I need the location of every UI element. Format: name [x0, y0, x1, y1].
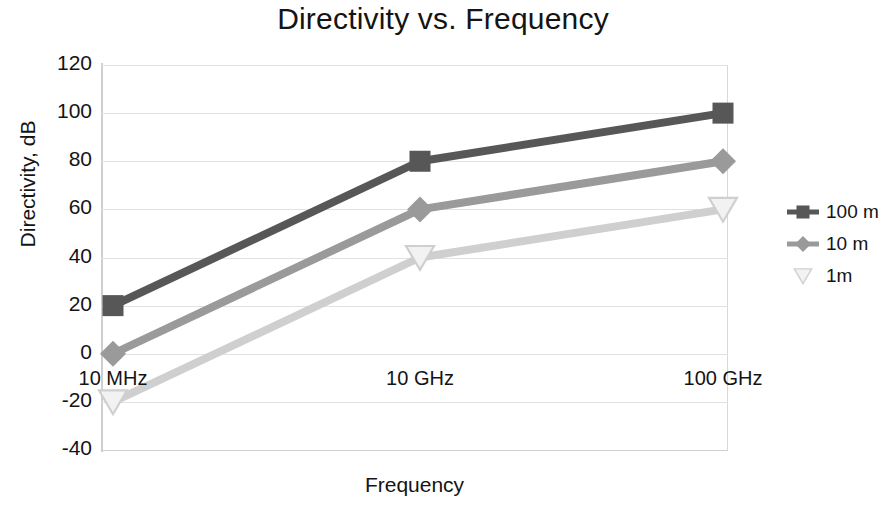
data-point-marker: [410, 151, 431, 172]
plot-area: [101, 65, 728, 450]
data-point-marker: [710, 148, 736, 174]
x-tick-label: 100 GHz: [653, 367, 793, 390]
chart-title: Directivity vs. Frequency: [0, 2, 886, 36]
x-tick-label: 10 GHz: [350, 367, 490, 390]
gridline--40: [101, 450, 728, 451]
y-tick-label: 0: [26, 340, 92, 364]
data-point-marker: [407, 196, 433, 222]
chart-root: Directivity vs. Frequency Directivity, d…: [0, 0, 886, 507]
legend-marker-diamond-icon: [786, 233, 820, 255]
y-tick-label: 40: [26, 244, 92, 268]
y-tick-label: -20: [26, 388, 92, 412]
legend-marker-square-icon: [786, 201, 820, 223]
data-point-marker: [103, 295, 124, 316]
x-axis-title: Frequency: [101, 473, 728, 497]
y-tick-label: 60: [26, 195, 92, 219]
legend-item-1m[interactable]: 1m: [786, 260, 886, 292]
data-point-marker: [99, 390, 127, 414]
y-tick-label: 80: [26, 147, 92, 171]
y-tick-label: -40: [26, 436, 92, 460]
x-tick-label: 10 MHz: [43, 367, 183, 390]
data-point-marker: [100, 341, 126, 367]
legend-item-label: 100 m: [826, 201, 879, 223]
y-tick-label: 100: [26, 99, 92, 123]
legend-item-label: 10 m: [826, 233, 868, 255]
legend-item-100-m[interactable]: 100 m: [786, 196, 886, 228]
legend-item-label: 1m: [826, 265, 852, 287]
legend-marker-triangle-down-icon: [786, 265, 820, 287]
y-tick-label: 120: [26, 51, 92, 75]
chart-legend: 100 m10 m1m: [786, 196, 886, 292]
legend-item-10-m[interactable]: 10 m: [786, 228, 886, 260]
data-point-marker: [713, 103, 734, 124]
y-tick-label: 20: [26, 292, 92, 316]
series-layer: [101, 65, 728, 450]
